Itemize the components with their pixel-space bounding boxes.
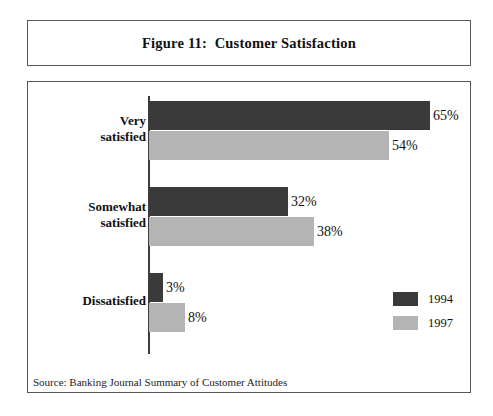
bar-fill (149, 303, 185, 332)
bar-fill (149, 217, 314, 246)
category-label-dissatisfied: Dissatisfied (28, 293, 146, 309)
bar-value-label: 65% (430, 108, 459, 124)
legend-item-1994: 1994 (393, 287, 453, 311)
category-label-line-1: Very (28, 113, 146, 129)
bar-somewhat-satisfied-1994: 32% (149, 187, 493, 216)
category-label-line-2: satisfied (28, 129, 146, 145)
bar-fill (149, 101, 430, 130)
legend-swatch-icon (393, 316, 418, 330)
source-note: Source: Banking Journal Summary of Custo… (33, 376, 287, 388)
bar-value-label: 32% (288, 194, 317, 210)
bar-fill (149, 187, 288, 216)
bar-value-label: 3% (163, 280, 185, 296)
plot-area: Very satisfied 65% 54% Somewhat satisfie… (28, 82, 470, 392)
bar-somewhat-satisfied-1997: 38% (149, 217, 493, 246)
figure-title-box: Figure 11: Customer Satisfaction (27, 20, 471, 66)
chart-legend: 1994 1997 (393, 287, 453, 335)
chart-container: Very satisfied 65% 54% Somewhat satisfie… (27, 81, 471, 393)
bar-group-very-satisfied: Very satisfied 65% 54% (28, 101, 470, 160)
bar-fill (149, 131, 389, 160)
legend-swatch-icon (393, 292, 418, 306)
legend-label: 1997 (428, 316, 453, 331)
bar-value-label: 38% (314, 224, 343, 240)
page-title: Figure 11: Customer Satisfaction (142, 35, 356, 52)
bar-value-label: 8% (185, 310, 207, 326)
legend-item-1997: 1997 (393, 311, 453, 335)
category-label-line-1: Dissatisfied (28, 293, 146, 309)
bar-very-satisfied-1994: 65% (149, 101, 493, 130)
bar-fill (149, 273, 163, 302)
category-label-very-satisfied: Very satisfied (28, 113, 146, 145)
category-label-line-2: satisfied (28, 215, 146, 231)
category-label-line-1: Somewhat (28, 199, 146, 215)
legend-label: 1994 (428, 292, 453, 307)
bar-group-somewhat-satisfied: Somewhat satisfied 32% 38% (28, 187, 470, 246)
bar-value-label: 54% (389, 138, 418, 154)
bar-very-satisfied-1997: 54% (149, 131, 493, 160)
category-label-somewhat-satisfied: Somewhat satisfied (28, 199, 146, 231)
